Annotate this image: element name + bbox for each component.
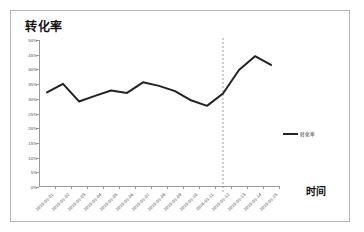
legend-label: 转化率 xyxy=(300,131,315,137)
y-tick-mark xyxy=(36,158,39,159)
chart-frame: 转化率 0%5%10%15%20%25%30%35%40%45%50% 2016… xyxy=(10,10,350,222)
line-series xyxy=(47,56,271,106)
chart-legend: 转化率 xyxy=(283,131,315,137)
line-series-layer xyxy=(47,56,271,106)
y-tick-mark xyxy=(36,99,39,100)
y-tick-mark xyxy=(36,55,39,56)
y-tick-mark xyxy=(36,172,39,173)
y-tick-mark xyxy=(36,143,39,144)
y-tick-mark xyxy=(36,187,39,188)
series-plot xyxy=(11,11,351,223)
legend-line-swatch xyxy=(283,133,298,135)
y-tick-mark xyxy=(36,128,39,129)
y-tick-mark xyxy=(36,84,39,85)
y-tick-mark xyxy=(36,114,39,115)
y-tick-mark xyxy=(36,40,39,41)
y-tick-mark xyxy=(36,69,39,70)
